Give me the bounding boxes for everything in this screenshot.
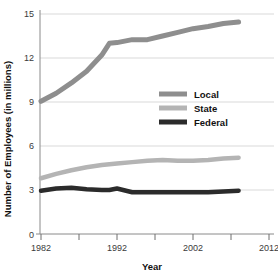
y-tick-labels: 15 12 9 6 3 0 bbox=[24, 9, 34, 240]
y-tick-15: 15 bbox=[24, 9, 34, 19]
y-tick-12: 12 bbox=[24, 53, 34, 63]
x-tick-labels: 1982 1992 2002 2012 bbox=[31, 243, 278, 253]
y-tick-0: 0 bbox=[29, 230, 34, 240]
y-tick-3: 3 bbox=[29, 185, 34, 195]
chart-canvas: 15 12 9 6 3 0 1982 1992 2002 2012 bbox=[0, 0, 278, 275]
x-tick-marks bbox=[41, 234, 269, 240]
gridlines bbox=[40, 14, 274, 190]
x-axis-title: Year bbox=[142, 261, 162, 272]
y-tick-6: 6 bbox=[29, 141, 34, 151]
x-label-1992: 1992 bbox=[107, 243, 127, 253]
legend-label-federal: Federal bbox=[194, 117, 228, 128]
x-label-2012: 2012 bbox=[259, 243, 278, 253]
legend: Local State Federal bbox=[159, 89, 228, 128]
x-label-1982: 1982 bbox=[31, 243, 51, 253]
x-label-2002: 2002 bbox=[183, 243, 203, 253]
legend-label-local: Local bbox=[194, 89, 219, 100]
series-line-state bbox=[41, 158, 239, 179]
legend-label-state: State bbox=[194, 103, 217, 114]
y-axis-title: Number of Employees (in millions) bbox=[2, 61, 13, 217]
y-tick-9: 9 bbox=[29, 97, 34, 107]
line-chart: 15 12 9 6 3 0 1982 1992 2002 2012 bbox=[0, 0, 278, 275]
series-line-federal bbox=[41, 188, 239, 192]
